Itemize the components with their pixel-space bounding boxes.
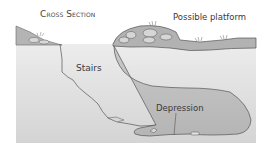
label-depression: Depression [156, 104, 204, 113]
right-mound [113, 21, 256, 51]
label-stairs: Stairs [76, 64, 102, 73]
cross-section-diagram: Cross Section Possible platform Stairs D… [0, 0, 272, 150]
label-possible-platform: Possible platform [173, 13, 246, 22]
cross-section-graphic [0, 0, 272, 150]
left-mound [16, 26, 62, 45]
diagram-title: Cross Section [40, 10, 95, 19]
